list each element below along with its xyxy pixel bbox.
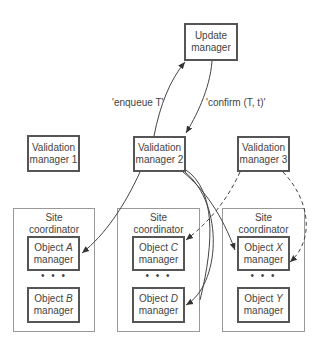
- arrows: [0, 0, 322, 350]
- arrow-to-object-d: [185, 172, 213, 305]
- dashed-arrow-to-object-x-right: [283, 172, 306, 262]
- enqueue-arrow: [154, 62, 185, 136]
- arrow-to-object-a: [82, 172, 140, 253]
- confirm-arrow: [186, 61, 212, 133]
